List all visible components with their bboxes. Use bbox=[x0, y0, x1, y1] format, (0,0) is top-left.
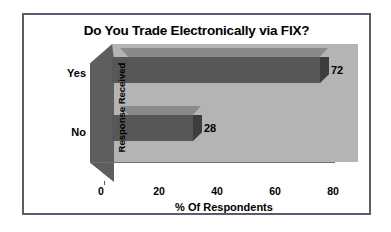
tick-mark-0 bbox=[104, 181, 105, 185]
bar-yes-top-face bbox=[120, 48, 328, 57]
x-tick-60: 60 bbox=[269, 185, 281, 197]
x-tick-20: 20 bbox=[153, 185, 165, 197]
chart-title: Do You Trade Electronically via FIX? bbox=[24, 23, 369, 38]
plot-area: 72 28 Yes No Response Received bbox=[90, 44, 358, 182]
chart-floor bbox=[90, 144, 358, 184]
x-tick-40: 40 bbox=[211, 185, 223, 197]
bar-yes-front-face bbox=[112, 57, 320, 83]
x-axis-title: % Of Respondents bbox=[90, 201, 358, 213]
x-tick-80: 80 bbox=[327, 185, 339, 197]
y-axis-title: Response Received bbox=[116, 63, 127, 153]
chart-frame: Do You Trade Electronically via FIX? 72 … bbox=[22, 13, 371, 215]
bar-yes[interactable] bbox=[112, 57, 320, 83]
y-category-label-no: No bbox=[46, 126, 86, 138]
x-axis-tick-labels: 0 20 40 60 80 bbox=[90, 185, 358, 199]
value-label-no: 28 bbox=[204, 122, 216, 134]
x-tick-0: 0 bbox=[98, 185, 104, 197]
value-label-yes: 72 bbox=[331, 64, 343, 76]
y-category-label-yes: Yes bbox=[46, 67, 86, 79]
chart-floor-front-edge bbox=[90, 162, 335, 163]
bar-no-top-face bbox=[120, 106, 201, 115]
